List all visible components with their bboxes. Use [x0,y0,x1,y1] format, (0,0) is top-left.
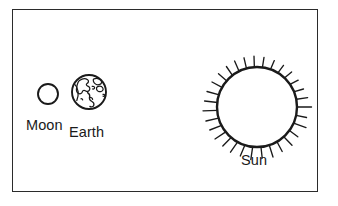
label-earth: Earth [69,125,104,140]
label-moon: Moon [26,118,63,133]
label-sun: Sun [241,153,267,168]
earth-figure [72,75,106,109]
moon-figure [38,84,58,104]
diagram-canvas: Moon Earth Sun [0,0,338,206]
moon-circle-icon [38,84,58,104]
sun-disc-icon [217,67,297,147]
celestial-bodies-illustration [0,0,338,206]
sun-figure [203,56,312,159]
